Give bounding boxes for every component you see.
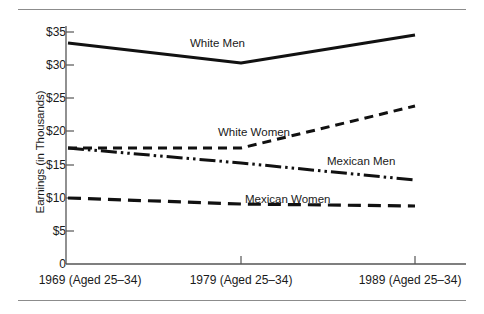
series-label-white-men: White Men (190, 38, 245, 50)
x-tick-label-1989: 1989 (Aged 25–34) (359, 274, 462, 286)
series-label-mexican-women: Mexican Women (245, 194, 330, 206)
x-tick-label-1979: 1979 (Aged 25–34) (190, 274, 293, 286)
series-label-white-women: White Women (218, 127, 290, 139)
series-line-mexican-women (68, 198, 415, 206)
series-label-mexican-men: Mexican Men (327, 156, 395, 168)
chart-figure: Earnings (in Thousands) $35 $30 $25 $20 … (0, 0, 484, 314)
x-axis-ticks (241, 256, 415, 264)
x-tick-label-1969: 1969 (Aged 25–34) (39, 274, 142, 286)
y-axis-ticks (66, 32, 74, 231)
